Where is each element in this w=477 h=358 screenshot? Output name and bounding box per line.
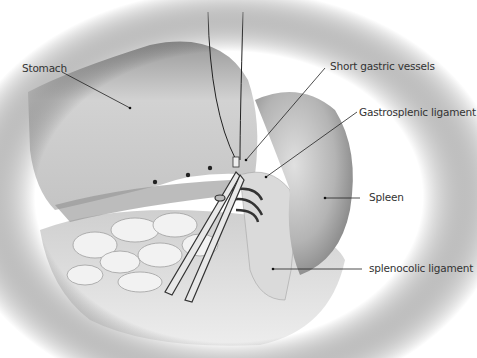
label-stomach: Stomach [22,62,67,74]
label-gastrosplenic-ligament: Gastrosplenic ligament [359,106,476,118]
anatomy-drawing [0,0,477,358]
illustration: Stomach Short gastric vessels Gastrosple… [0,0,477,358]
label-splenocolic-ligament: splenocolic ligament [369,262,473,274]
label-short-gastric-vessels: Short gastric vessels [330,60,435,72]
label-spleen: Spleen [369,191,404,203]
